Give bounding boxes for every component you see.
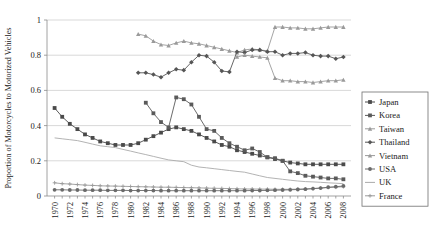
data-point [106,141,110,145]
data-point [319,162,323,166]
series-line [237,55,343,82]
data-point [304,174,308,178]
data-point [212,129,216,133]
data-point [144,101,148,105]
data-point [342,162,346,166]
data-point [166,71,171,76]
y-tick-label: 0.2 [30,156,41,166]
data-point [326,54,331,59]
x-tick-label: 1988 [187,202,196,218]
x-tick-label: 1976 [96,202,105,218]
x-axis-ticks: 1970197219741976197819801982198419861988… [51,196,349,218]
data-point [220,189,224,193]
data-point [159,120,163,124]
data-point [144,71,149,76]
data-point [311,175,315,179]
x-tick-label: 1982 [142,202,151,218]
data-point [197,133,201,137]
x-tick-label: 1992 [218,202,227,218]
data-point [205,189,209,193]
data-point [68,188,72,192]
legend-label: Thailand [379,137,410,147]
series-line [138,27,343,53]
data-point [296,162,300,166]
data-point [106,188,110,192]
data-point [60,115,64,119]
data-point [258,154,262,158]
y-tick-label: 0.6 [30,85,41,95]
data-point [167,125,171,129]
data-point [83,188,87,192]
y-tick-label: 1 [37,15,41,25]
data-point [159,189,163,193]
data-point [288,188,292,192]
data-point [144,138,148,142]
series-taiwan [136,25,346,55]
x-tick-label: 2004 [309,202,318,218]
data-point [53,106,57,110]
chart-container: 00.20.40.60.81 1970197219741976197819801… [0,0,432,252]
data-point [114,188,118,192]
data-point [121,188,125,192]
data-point [265,49,270,54]
data-point [182,189,186,193]
x-tick-label: 2002 [294,202,303,218]
data-point [197,115,201,119]
chart-legend[interactable]: JapanKoreaTaiwanThailandVietnamUSAUKFran… [362,92,428,206]
x-tick-label: 1986 [172,202,181,218]
data-point [326,162,330,166]
data-point [98,188,102,192]
data-point [326,185,330,189]
legend-border [362,92,428,206]
data-point [288,169,292,173]
data-point [296,171,300,175]
data-point [319,176,323,180]
series-vietnam [235,53,346,84]
data-point [304,162,308,166]
x-tick-label: 1998 [263,202,272,218]
data-point [235,49,240,54]
data-point [174,125,178,129]
data-point [197,189,201,193]
data-point [190,129,194,133]
series-thailand [136,48,346,80]
data-point [250,189,254,193]
data-point [205,136,209,140]
data-point [296,188,300,192]
y-tick-label: 0.4 [30,121,41,131]
x-tick-label: 1994 [233,202,242,218]
data-point [190,189,194,193]
data-point [228,145,232,149]
data-point [273,76,277,80]
data-point [91,188,95,192]
data-point [144,189,148,193]
y-axis-title: Proportion of Motorcycles to Motorized V… [4,27,13,188]
data-point [334,162,338,166]
data-point [288,161,292,165]
data-point [235,189,239,193]
data-point [281,159,285,163]
data-point [220,143,224,147]
data-point [250,152,254,156]
legend-label: France [379,191,403,201]
x-tick-label: 1990 [203,202,212,218]
data-point [174,96,178,100]
data-point [273,49,278,54]
series-line [146,97,344,179]
data-point [311,162,315,166]
data-point [152,189,156,193]
data-point [68,122,72,126]
x-tick-label: 1978 [111,202,120,218]
data-point [266,155,270,159]
data-point [250,147,254,151]
x-tick-label: 1974 [81,202,90,218]
legend-label: Vietnam [379,151,408,161]
series-korea [144,96,345,182]
data-point [98,140,102,144]
data-point [311,187,315,191]
data-point [281,188,285,192]
data-point [182,97,186,101]
data-point [235,145,239,149]
data-point [212,140,216,144]
data-point [151,72,156,77]
